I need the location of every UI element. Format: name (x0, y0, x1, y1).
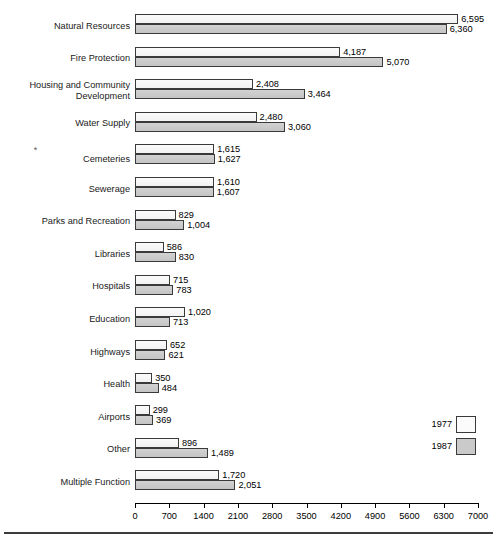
category-label: *Cemeteries (0, 147, 135, 165)
category-label-text: Parks and Recreation (42, 216, 130, 226)
chart-row: Housing and Community Development2,4083,… (0, 79, 497, 102)
bar-1987 (135, 24, 447, 34)
bar-value-label: 484 (159, 383, 177, 393)
x-axis-tick (409, 503, 410, 508)
bar-1987 (135, 252, 176, 262)
bar-value-label: 1,004 (184, 220, 210, 230)
chart-row: Highways652621 (0, 340, 497, 363)
x-axis-tick (272, 503, 273, 508)
bar-1977 (135, 373, 152, 383)
chart-row: Parks and Recreation8291,004 (0, 210, 497, 233)
bar-1977 (135, 470, 219, 480)
category-label: Housing and Community Development (0, 80, 135, 102)
bar-value-label: 1,610 (214, 177, 240, 187)
legend-label-1977: 1977 (408, 419, 452, 430)
bar-value-label: 1,607 (214, 187, 240, 197)
bar-1977 (135, 79, 253, 89)
bar-1987 (135, 415, 153, 425)
bar-value-label: 1,489 (208, 448, 234, 458)
bar-value-label: 369 (153, 415, 171, 425)
bar-1977 (135, 47, 340, 57)
category-label-text: Airports (98, 411, 130, 421)
x-axis-tick (135, 503, 136, 508)
x-axis-tick-label: 3500 (296, 511, 316, 522)
category-label: Natural Resources (0, 20, 135, 31)
bar-1987 (135, 89, 305, 99)
bar-1977 (135, 275, 170, 285)
footnote-marker: * (0, 147, 96, 154)
bar-1987 (135, 317, 170, 327)
category-label: Parks and Recreation (0, 216, 135, 227)
bar-1987 (135, 122, 285, 132)
chart-row: Libraries586830 (0, 242, 497, 265)
bar-1977 (135, 144, 214, 154)
category-label-text: Water Supply (75, 118, 130, 128)
bar-value-label: 1,020 (185, 307, 211, 317)
bar-value-label: 6,360 (447, 24, 473, 34)
x-axis-tick (307, 503, 308, 508)
x-axis-tick-label: 5600 (399, 511, 419, 522)
category-label: Multiple Function (0, 476, 135, 487)
x-axis-tick-label: 2100 (228, 511, 248, 522)
bar-1987 (135, 448, 208, 458)
category-label-text: Sewerage (89, 183, 130, 193)
bar-value-label: 1,627 (215, 154, 241, 164)
bar-1977 (135, 177, 214, 187)
x-axis-tick (341, 503, 342, 508)
legend-item-1977: 1977 (408, 414, 488, 436)
bar-1977 (135, 438, 179, 448)
bar-value-label: 299 (150, 405, 168, 415)
category-label-text: Other (107, 444, 130, 454)
category-label-text: Multiple Function (61, 476, 130, 486)
bar-value-label: 830 (176, 252, 194, 262)
x-axis-tick-label: 6300 (433, 511, 453, 522)
bar-value-label: 715 (170, 275, 188, 285)
x-axis-tick-label: 1400 (193, 511, 213, 522)
bottom-divider (4, 532, 493, 534)
x-axis-tick (238, 503, 239, 508)
category-label-text: Health (103, 379, 130, 389)
chart-legend: 1977 1987 (408, 414, 488, 458)
chart-row: Fire Protection4,1875,070 (0, 47, 497, 70)
horizontal-bar-chart: Natural Resources6,5956,360Fire Protecti… (0, 0, 497, 540)
x-axis-tick (444, 503, 445, 508)
category-label: Water Supply (0, 118, 135, 129)
category-label-text: Highways (90, 346, 130, 356)
category-label: Highways (0, 346, 135, 357)
bar-value-label: 3,060 (285, 122, 311, 132)
bar-1977 (135, 307, 185, 317)
bar-1977 (135, 242, 164, 252)
bar-value-label: 829 (176, 210, 194, 220)
bar-value-label: 5,070 (383, 57, 409, 67)
category-label-text: Housing and Community Development (29, 80, 130, 101)
bar-1987 (135, 383, 159, 393)
chart-row: Education1,020713 (0, 307, 497, 330)
bar-1977 (135, 340, 167, 350)
category-label: Libraries (0, 248, 135, 259)
bar-1977 (135, 14, 458, 24)
bar-value-label: 652 (167, 340, 185, 350)
bar-value-label: 350 (152, 373, 170, 383)
x-axis-tick (478, 503, 479, 508)
chart-row: Natural Resources6,5956,360 (0, 14, 497, 37)
x-axis-tick (169, 503, 170, 508)
chart-row: Water Supply2,4803,060 (0, 112, 497, 135)
bar-1987 (135, 57, 383, 67)
bar-value-label: 783 (173, 285, 191, 295)
category-label-text: Hospitals (92, 281, 130, 291)
chart-row: Sewerage1,6101,607 (0, 177, 497, 200)
category-label-text: Natural Resources (54, 20, 130, 30)
bar-1977 (135, 112, 257, 122)
x-axis-tick-label: 2800 (262, 511, 282, 522)
category-label-text: Education (89, 313, 130, 323)
gray-swatch-icon (456, 438, 476, 455)
category-label-text: Fire Protection (70, 53, 130, 63)
x-axis-tick-label: 7000 (468, 511, 488, 522)
bar-1987 (135, 350, 165, 360)
category-label: Hospitals (0, 281, 135, 292)
chart-row: Health350484 (0, 373, 497, 396)
x-axis-tick (204, 503, 205, 508)
legend-label-1987: 1987 (408, 441, 452, 452)
category-label: Other (0, 444, 135, 455)
bar-value-label: 3,464 (305, 89, 331, 99)
